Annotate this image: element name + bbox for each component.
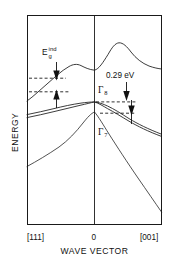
gamma8-label-sub: 8 (104, 89, 107, 96)
band-diagram-svg: E g ind 0.29 eV Γ 8 Γ 7 ENERGY [111] 0 [… (0, 0, 181, 267)
x-tick-label-left: [111] (27, 233, 44, 242)
spin-orbit-arrowhead-upper (123, 91, 129, 101)
band-structure-figure: E g ind 0.29 eV Γ 8 Γ 7 ENERGY [111] 0 [… (0, 0, 181, 267)
x-tick-label-center: 0 (92, 233, 97, 242)
gamma8-label-base: Γ (98, 85, 104, 95)
spin-orbit-split-label: 0.29 eV (106, 71, 135, 80)
x-tick-label-right: [001] (140, 233, 158, 242)
indirect-gap-label-sup: ind (49, 46, 57, 52)
indirect-gap-arrowhead-down (53, 71, 59, 81)
indirect-gap-label-base: E (42, 47, 48, 57)
y-axis-label: ENERGY (10, 113, 20, 152)
gamma7-label-base: Γ (98, 127, 104, 137)
x-axis-label: WAVE VECTOR (61, 246, 129, 256)
indirect-gap-label-sub: g (49, 53, 52, 59)
indirect-gap-arrowhead-up (53, 90, 59, 100)
